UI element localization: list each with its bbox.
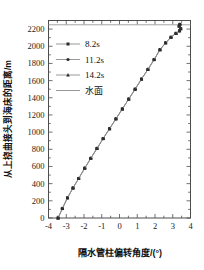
x-axis-label: 隔水管柱偏转角度/(°) — [78, 247, 162, 258]
y-axis-label: 从上挠曲接头到海床的距离/m — [2, 60, 13, 178]
x-tick-label: 3 — [171, 221, 175, 231]
y-tick-label: 1400 — [28, 93, 45, 103]
legend-label: 11.2s — [85, 55, 104, 65]
y-tick-label: 1800 — [28, 58, 45, 68]
y-tick-label: 1600 — [28, 76, 45, 86]
x-tick-label: -3 — [63, 221, 70, 231]
legend-label: 8.2s — [85, 39, 100, 49]
riser-deflection-chart: 0200400600800100012001400160018002000220… — [0, 0, 204, 270]
y-tick-label: 600 — [32, 161, 45, 171]
y-tick-label: 0 — [40, 213, 44, 223]
chart-figure: 0200400600800100012001400160018002000220… — [0, 0, 204, 270]
data-point-square — [67, 43, 70, 46]
x-tick-label: 2 — [153, 221, 157, 231]
y-tick-label: 200 — [32, 196, 45, 206]
data-point-circle — [66, 58, 69, 61]
y-tick-label: 1200 — [28, 110, 45, 120]
y-tick-label: 2000 — [28, 41, 45, 51]
y-tick-label: 400 — [32, 179, 45, 189]
x-tick-label: -4 — [45, 221, 53, 231]
x-tick-label: 0 — [117, 221, 121, 231]
y-tick-label: 800 — [32, 144, 45, 154]
legend-label: 14.2s — [85, 70, 105, 80]
y-tick-label: 2200 — [28, 24, 45, 34]
x-tick-label: 1 — [135, 221, 139, 231]
x-tick-label: -2 — [80, 221, 87, 231]
x-tick-label: -1 — [98, 221, 105, 231]
y-tick-label: 1000 — [28, 127, 45, 137]
legend-label: 水面 — [85, 85, 103, 96]
